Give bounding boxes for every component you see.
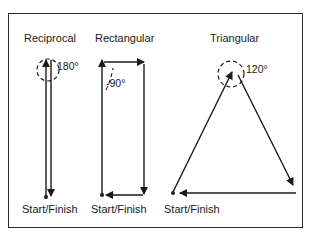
start-point bbox=[171, 191, 175, 195]
start-point bbox=[100, 193, 104, 197]
start-label-reciprocal: Start/Finish bbox=[22, 203, 78, 215]
start-label-rectangular: Start/Finish bbox=[91, 203, 147, 215]
angle-label-triangular: 120° bbox=[246, 63, 268, 75]
turn-angle-circle bbox=[37, 59, 59, 81]
angle-label-reciprocal: 180° bbox=[57, 60, 79, 72]
panel-title-reciprocal: Reciprocal bbox=[24, 32, 76, 44]
angle-label-rectangular: -90° bbox=[106, 77, 125, 89]
start-label-triangular: Start/Finish bbox=[164, 203, 220, 215]
start-point bbox=[44, 195, 48, 199]
figure: Reciprocal 180° Start/Finish Rectangular… bbox=[0, 0, 312, 236]
panel-title-rectangular: Rectangular bbox=[95, 32, 154, 44]
reciprocal-route bbox=[37, 59, 59, 199]
panel-title-triangular: Triangular bbox=[210, 32, 259, 44]
triangular-route bbox=[171, 61, 296, 195]
